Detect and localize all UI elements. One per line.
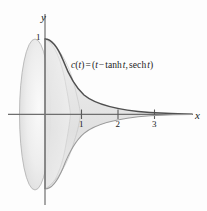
x-axis-label: x	[195, 110, 200, 121]
y-tick-label-1: 1	[36, 33, 41, 42]
eq-equals: =	[86, 60, 91, 70]
eq-comma: ,	[126, 60, 128, 70]
eq-paren-close-1: )	[81, 60, 84, 70]
x-tick-label-1: 1	[79, 120, 84, 129]
eq-paren-close-2: )	[150, 60, 153, 70]
x-tick-label-2: 2	[116, 120, 121, 129]
parametric-surface-plot	[0, 0, 207, 211]
x-tick-label-3: 3	[152, 120, 157, 129]
figure-container: y x 1 1 2 3 c(t) = (t − tanh t, sech t)	[0, 0, 207, 211]
equation-annotation: c(t) = (t − tanh t, sech t)	[71, 61, 153, 71]
eq-minus: −	[99, 60, 104, 70]
eq-sech: sech	[129, 60, 146, 70]
y-axis-label: y	[41, 12, 46, 23]
eq-tanh: tanh	[105, 60, 122, 70]
eq-var-t-2: t	[95, 60, 98, 70]
